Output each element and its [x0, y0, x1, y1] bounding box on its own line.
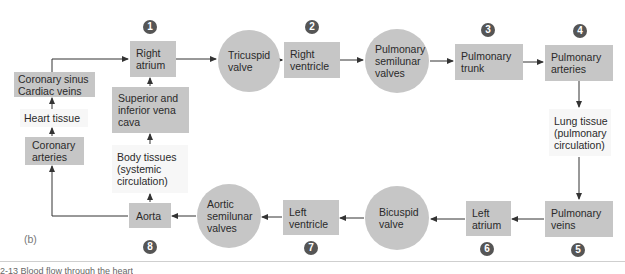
node-text: circulation)	[554, 139, 606, 151]
node-text: trunk	[461, 62, 517, 74]
step-badge-6: 6	[480, 242, 494, 256]
node-text: cava	[118, 116, 183, 128]
node-lung-tissue: Lung tissue (pulmonary circulation)	[549, 109, 611, 156]
node-text: atrium	[136, 59, 170, 71]
node-text: valve	[228, 61, 280, 73]
caption-divider	[0, 261, 625, 262]
step-badge-5: 5	[571, 243, 585, 257]
node-text: arteries	[551, 63, 607, 75]
step-badge-4: 4	[573, 24, 587, 38]
node-text: Left	[289, 206, 333, 218]
node-aorta: Aorta	[129, 203, 171, 228]
node-text: (systemic	[117, 163, 183, 175]
node-vena-cava: Superior and inferior vena cava	[112, 87, 189, 133]
step-badge-2: 2	[305, 20, 319, 34]
node-tricuspid-valve: Tricuspid valve	[218, 30, 280, 92]
node-text: Coronary	[32, 139, 77, 151]
node-text: Lung tissue	[554, 115, 606, 127]
node-text: arteries	[32, 151, 77, 163]
figure-label: (b)	[24, 233, 37, 245]
node-text: Pulmonary	[461, 50, 517, 62]
node-text: Pulmonary	[551, 207, 607, 219]
node-right-atrium: Right atrium	[130, 41, 176, 77]
node-coronary-arteries: Coronary arteries	[25, 137, 84, 165]
node-text: valves	[207, 222, 261, 234]
node-text: semilunar	[207, 210, 261, 222]
node-text: (pulmonary	[554, 127, 606, 139]
node-text: Pulmonary	[375, 43, 429, 55]
node-text: Heart tissue	[24, 112, 84, 124]
node-text: circulation)	[117, 175, 183, 187]
node-pulmonary-trunk: Pulmonary trunk	[455, 44, 523, 80]
node-text: valves	[375, 67, 429, 79]
node-pulmonary-semilunar-valves: Pulmonary semilunar valves	[365, 29, 429, 93]
node-text: veins	[551, 219, 607, 231]
node-text: ventricle	[289, 218, 333, 230]
node-text: Right	[136, 47, 170, 59]
node-bicuspid-valve: Bicuspid valve	[365, 186, 429, 250]
node-text: Left	[472, 207, 505, 219]
step-badge-8: 8	[143, 240, 157, 254]
node-text: Pulmonary	[551, 51, 607, 63]
node-text: ventricle	[290, 60, 334, 72]
node-text: Aorta	[136, 210, 165, 222]
node-text: valve	[379, 218, 429, 230]
node-coronary-sinus: Coronary sinus Cardiac veins	[14, 72, 95, 97]
step-badge-1: 1	[143, 20, 157, 34]
node-left-atrium: Left atrium	[466, 201, 511, 236]
node-text: semilunar	[375, 55, 429, 67]
node-text: Aortic	[207, 198, 261, 210]
step-badge-3: 3	[481, 23, 495, 37]
node-text: Tricuspid	[228, 49, 280, 61]
node-text: Body tissues	[117, 151, 183, 163]
node-body-tissues: Body tissues (systemic circulation)	[112, 145, 188, 193]
figure-caption-fragment: 2-13 Blood flow through the heart	[0, 266, 133, 274]
step-badge-7: 7	[304, 241, 318, 255]
node-pulmonary-arteries: Pulmonary arteries	[545, 45, 613, 81]
node-text: Coronary sinus	[18, 73, 91, 85]
node-text: Right	[290, 48, 334, 60]
node-text: Bicuspid	[379, 206, 429, 218]
node-left-ventricle: Left ventricle	[283, 200, 339, 235]
node-heart-tissue: Heart tissue	[20, 109, 88, 127]
node-text: inferior vena	[118, 104, 183, 116]
node-right-ventricle: Right ventricle	[284, 42, 340, 78]
node-pulmonary-veins: Pulmonary veins	[545, 201, 613, 237]
node-aortic-semilunar-valves: Aortic semilunar valves	[197, 184, 261, 248]
node-text: Cardiac veins	[18, 85, 91, 97]
node-text: Superior and	[118, 92, 183, 104]
node-text: atrium	[472, 219, 505, 231]
